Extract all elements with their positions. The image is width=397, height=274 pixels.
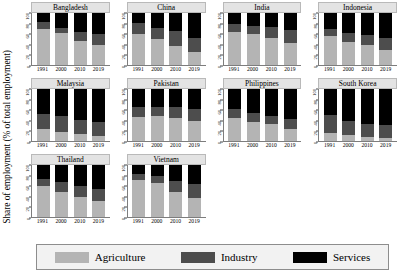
bar-segment-industry: [324, 29, 337, 36]
legend-item: Industry: [181, 252, 258, 263]
x-tick-label: 2000: [246, 143, 259, 154]
y-tick-label: 40: [217, 121, 222, 126]
stacked-bar: [169, 89, 182, 141]
bar-segment-industry: [188, 109, 201, 121]
bar-segment-industry: [92, 189, 105, 201]
panel-title: Bangladesh: [31, 2, 110, 13]
bar-segment-agriculture: [247, 122, 260, 141]
bar-segment-services: [342, 89, 355, 121]
bar-segment-services: [92, 165, 105, 189]
bar-segment-services: [188, 89, 201, 109]
stacked-bar: [74, 89, 87, 141]
bar-segment-agriculture: [92, 201, 105, 217]
stacked-bar: [247, 13, 260, 65]
plot-area: [223, 13, 302, 66]
bar-segment-industry: [92, 34, 105, 45]
y-tick-label: 100: [26, 89, 31, 96]
y-axis: 020406080100: [14, 2, 31, 78]
x-tick-label: 2019: [283, 67, 296, 78]
bars: [128, 13, 206, 65]
stacked-bar: [188, 89, 201, 141]
stacked-bar: [324, 89, 337, 141]
bar-segment-services: [228, 13, 241, 24]
stacked-bar: [37, 13, 50, 65]
x-tick-label: 2019: [379, 143, 392, 154]
x-tick-label: 2000: [342, 143, 355, 154]
bar-segment-services: [247, 89, 260, 113]
y-tick-label: 100: [121, 165, 126, 172]
panel-body: China1991200020102019: [127, 2, 206, 78]
stacked-bar: [55, 89, 68, 141]
y-tick-label: 60: [121, 186, 126, 191]
bar-segment-industry: [37, 114, 50, 129]
y-tick-label: 60: [26, 110, 31, 115]
panel-indonesia: 020406080100Indonesia1991200020102019: [301, 2, 397, 78]
plot-area: [318, 89, 397, 142]
x-tick-label: 1991: [132, 67, 145, 78]
stacked-bar: [169, 13, 182, 65]
bar-segment-industry: [74, 32, 87, 41]
y-axis: 020406080100: [110, 154, 127, 230]
y-tick-label: 80: [26, 100, 31, 105]
bar-segment-services: [55, 165, 68, 182]
bar-segment-services: [132, 13, 145, 23]
x-tick-label: 2010: [73, 143, 86, 154]
x-tick-label: 2019: [92, 143, 105, 154]
bar-segment-industry: [169, 107, 182, 118]
y-axis-title: Share of employment (% of total employme…: [2, 50, 12, 224]
small-multiples-chart: Share of employment (% of total employme…: [0, 0, 397, 274]
bar-segment-services: [55, 13, 68, 28]
bar-segment-agriculture: [188, 52, 201, 65]
y-axis: 020406080100: [301, 2, 318, 78]
bars: [224, 13, 302, 65]
bar-segment-agriculture: [361, 137, 374, 141]
bar-segment-industry: [55, 182, 68, 192]
bar-segment-agriculture: [132, 180, 145, 217]
plot-area: [223, 89, 302, 142]
panel-title: South Korea: [318, 78, 397, 89]
bar-segment-agriculture: [228, 118, 241, 141]
x-tick-label: 2019: [92, 219, 105, 230]
bar-segment-industry: [55, 116, 68, 133]
bar-segment-agriculture: [55, 33, 68, 65]
bar-segment-agriculture: [265, 38, 278, 65]
bar-segment-industry: [92, 122, 105, 136]
x-axis: 1991200020102019: [318, 66, 397, 78]
bar-segment-services: [151, 13, 164, 28]
bar-segment-services: [92, 89, 105, 122]
bar-segment-industry: [151, 28, 164, 39]
bar-segment-industry: [228, 24, 241, 32]
x-tick-label: 2010: [73, 219, 86, 230]
legend-swatch-services: [293, 252, 327, 263]
stacked-bar: [379, 89, 392, 141]
bar-segment-agriculture: [342, 42, 355, 65]
stacked-bar: [92, 165, 105, 217]
stacked-bar: [188, 13, 201, 65]
stacked-bar: [132, 13, 145, 65]
bar-segment-agriculture: [151, 183, 164, 217]
y-tick-label: 100: [121, 13, 126, 20]
bars: [32, 89, 110, 141]
bar-segment-services: [361, 89, 374, 124]
y-tick-label: 40: [121, 45, 126, 50]
bar-segment-agriculture: [265, 124, 278, 141]
stacked-bar: [284, 13, 297, 65]
x-axis: 1991200020102019: [318, 142, 397, 154]
panel-india: 020406080100India1991200020102019: [206, 2, 302, 78]
bar-segment-services: [55, 89, 68, 116]
x-tick-label: 1991: [36, 67, 49, 78]
panel-row-1: 020406080100Bangladesh199120002010201902…: [14, 2, 397, 78]
panel-title: India: [223, 2, 302, 13]
x-tick-label: 2000: [150, 219, 163, 230]
bar-segment-agriculture: [169, 118, 182, 141]
bar-segment-agriculture: [55, 132, 68, 141]
bar-segment-services: [74, 89, 87, 120]
stacked-bar: [74, 13, 87, 65]
bar-segment-industry: [37, 22, 50, 29]
y-tick-label: 60: [313, 34, 318, 39]
y-tick-label: 60: [26, 34, 31, 39]
x-tick-label: 2000: [55, 219, 68, 230]
bar-segment-industry: [247, 26, 260, 34]
panel-body: India1991200020102019: [223, 2, 302, 78]
bar-segment-services: [324, 89, 337, 114]
